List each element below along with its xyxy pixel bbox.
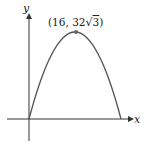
parabola-diagram: y x (16, 32√3) xyxy=(0,0,144,145)
parabola-curve xyxy=(29,32,121,119)
vertex-point xyxy=(74,30,78,34)
vertex-label: (16, 32√3) xyxy=(48,16,103,29)
x-axis-label: x xyxy=(134,113,141,126)
y-axis-label: y xyxy=(22,2,30,15)
